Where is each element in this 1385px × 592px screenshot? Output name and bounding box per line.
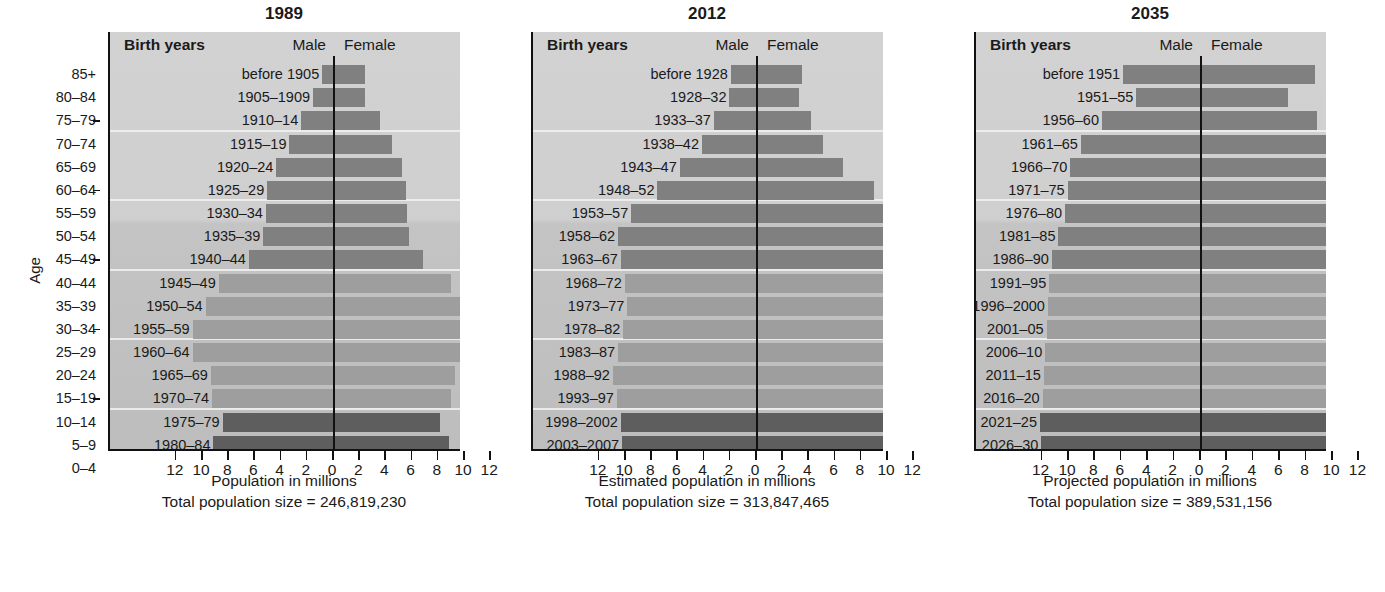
birth-years-label: before 1928 bbox=[568, 65, 728, 84]
birth-years-label: 1988–92 bbox=[531, 366, 610, 385]
bar-female bbox=[757, 320, 883, 339]
bar-female bbox=[334, 297, 460, 316]
pyramid-row: 1986–90 bbox=[976, 248, 1326, 271]
pyramid-row: 1910–14 bbox=[110, 109, 460, 132]
x-axis-title: Estimated population in millions bbox=[531, 472, 883, 490]
bar-female bbox=[757, 88, 799, 107]
female-legend-label: Female bbox=[767, 36, 819, 54]
x-axis-tick bbox=[781, 451, 783, 460]
birth-years-label: 1978–82 bbox=[531, 320, 620, 339]
age-tick-label: 75–79 bbox=[56, 109, 96, 132]
x-axis-tick bbox=[253, 451, 255, 460]
total-population-label: Total population size = 246,819,230 bbox=[108, 493, 460, 511]
age-tick-label: 30–34 bbox=[56, 318, 96, 341]
bar-male bbox=[1045, 343, 1201, 362]
bar-male bbox=[621, 413, 757, 432]
age-tick-label: 55–59 bbox=[56, 202, 96, 225]
bar-female bbox=[1201, 204, 1326, 223]
birth-years-header: Birth years bbox=[990, 36, 1071, 54]
birth-years-label: 1966–70 bbox=[974, 158, 1067, 177]
x-axis-tick bbox=[886, 451, 888, 460]
bar-male bbox=[289, 135, 334, 154]
pyramid-row: before 1928 bbox=[533, 63, 883, 86]
birth-years-header: Birth years bbox=[124, 36, 205, 54]
birth-years-label: 2003–2007 bbox=[531, 436, 619, 449]
bar-male bbox=[212, 389, 334, 408]
bar-male bbox=[263, 227, 334, 246]
x-axis-tick bbox=[1120, 451, 1122, 460]
bar-male bbox=[1102, 111, 1201, 130]
x-axis-tick bbox=[912, 451, 914, 460]
bar-male bbox=[219, 274, 334, 293]
bar-male bbox=[213, 436, 334, 449]
bar-male bbox=[657, 181, 757, 200]
pyramid-row: 2026–30 bbox=[976, 434, 1326, 449]
bar-female bbox=[334, 320, 460, 339]
bar-female bbox=[1201, 343, 1326, 362]
panel-header: Birth yearsMaleFemale bbox=[976, 32, 1326, 63]
bar-female bbox=[334, 204, 407, 223]
x-axis: 12108642024681012 bbox=[974, 449, 1326, 461]
bar-female bbox=[1201, 181, 1326, 200]
pyramid-row: 1920–24 bbox=[110, 156, 460, 179]
birth-years-label: 2021–25 bbox=[974, 413, 1037, 432]
bar-male bbox=[1040, 413, 1201, 432]
x-axis-tick bbox=[598, 451, 600, 460]
bar-female bbox=[1201, 413, 1326, 432]
panel-title: 2035 bbox=[974, 4, 1326, 24]
x-axis-tick bbox=[755, 451, 757, 460]
bar-male bbox=[627, 297, 757, 316]
bar-female bbox=[1201, 65, 1315, 84]
plot-area: before 19281928–321933–371938–421943–471… bbox=[531, 32, 883, 449]
bar-male bbox=[1043, 389, 1201, 408]
bar-male bbox=[625, 274, 757, 293]
pyramid-row: 1953–57 bbox=[533, 202, 883, 225]
birth-years-label: 1986–90 bbox=[974, 250, 1049, 269]
bar-female bbox=[1201, 320, 1326, 339]
male-legend-label: Male bbox=[715, 36, 749, 54]
pyramid-row: 1978–82 bbox=[533, 318, 883, 341]
bar-female bbox=[334, 366, 455, 385]
plot-area: before 19511951–551956–601961–651966–701… bbox=[974, 32, 1326, 449]
bar-male bbox=[731, 65, 757, 84]
x-axis-tick bbox=[1041, 451, 1043, 460]
bar-male bbox=[211, 366, 334, 385]
pyramid-row: 1996–2000 bbox=[976, 295, 1326, 318]
pyramid-row: 1945–49 bbox=[110, 272, 460, 295]
age-tick-dash bbox=[93, 329, 100, 331]
bar-male bbox=[1041, 436, 1201, 449]
bar-male bbox=[276, 158, 334, 177]
bar-female bbox=[757, 158, 843, 177]
birth-years-label: 1948–52 bbox=[531, 181, 654, 200]
birth-years-label: 1928–32 bbox=[566, 88, 726, 107]
bar-female bbox=[757, 227, 883, 246]
birth-years-label: 1910–14 bbox=[138, 111, 298, 130]
bar-male bbox=[729, 88, 757, 107]
bar-female bbox=[757, 297, 883, 316]
bar-female bbox=[334, 436, 449, 449]
pyramid-row: 1975–79 bbox=[110, 411, 460, 434]
birth-years-label: 1976–80 bbox=[974, 204, 1062, 223]
birth-years-label: 1943–47 bbox=[531, 158, 677, 177]
bar-female bbox=[1201, 274, 1326, 293]
age-tick-dash bbox=[93, 190, 100, 192]
bar-female bbox=[757, 436, 883, 449]
bar-male bbox=[193, 320, 334, 339]
birth-years-label: 1968–72 bbox=[531, 274, 622, 293]
bar-male bbox=[1065, 204, 1201, 223]
x-axis-tick bbox=[1173, 451, 1175, 460]
bar-male bbox=[1048, 297, 1201, 316]
bar-male bbox=[714, 111, 757, 130]
pyramid-row: 1973–77 bbox=[533, 295, 883, 318]
bar-female bbox=[757, 274, 883, 293]
age-tick-label: 10–14 bbox=[56, 411, 96, 434]
age-tick-label: 0–4 bbox=[72, 457, 96, 480]
birth-years-label: 1950–54 bbox=[108, 297, 203, 316]
birth-years-label: 1961–65 bbox=[974, 135, 1078, 154]
bar-male bbox=[266, 204, 334, 223]
birth-years-label: 2001–05 bbox=[974, 320, 1044, 339]
pyramid-row: 1970–74 bbox=[110, 387, 460, 410]
x-axis-title: Projected population in millions bbox=[974, 472, 1326, 490]
pyramid-row: 1951–55 bbox=[976, 86, 1326, 109]
bar-male bbox=[617, 389, 757, 408]
